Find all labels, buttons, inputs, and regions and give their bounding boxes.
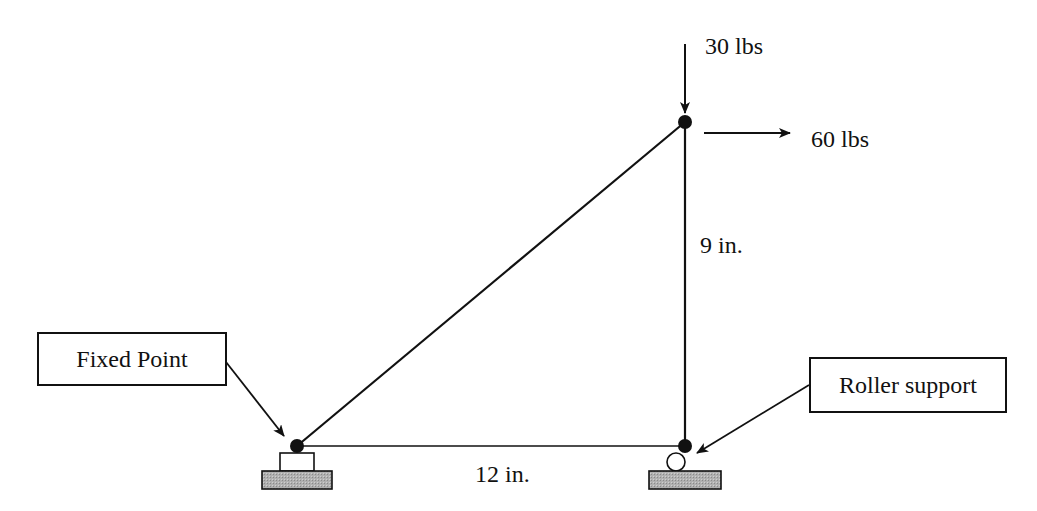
roller-support-callout: Roller support [809,357,1007,413]
roller-callout-leader [697,385,809,453]
joint-right [678,439,692,453]
fixed-support-block [280,453,314,471]
fixed-point-callout: Fixed Point [37,332,227,386]
joint-top [678,115,692,129]
base-dimension-label: 12 in. [475,462,530,486]
joint-left [290,439,304,453]
fixed-support-ground [262,471,332,489]
roller-wheel [667,453,685,471]
truss-diagram [0,0,1037,511]
vertical-load-label: 30 lbs [705,34,763,58]
roller-support-ground [649,471,721,489]
member-diagonal [297,122,685,446]
fixed-callout-leader [226,362,284,436]
height-dimension-label: 9 in. [700,233,743,257]
horizontal-load-label: 60 lbs [811,127,869,151]
